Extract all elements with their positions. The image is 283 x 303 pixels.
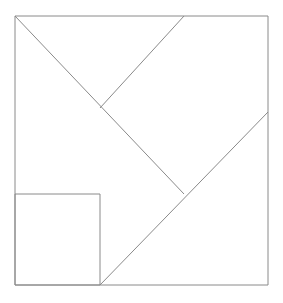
tangram-figure xyxy=(0,0,283,303)
tangram-canvas xyxy=(0,0,283,303)
